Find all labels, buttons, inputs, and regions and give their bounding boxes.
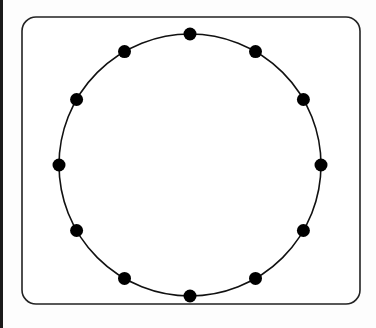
circle-point-6 [249, 272, 262, 285]
diagram-frame [22, 17, 360, 304]
circle-point-5 [297, 224, 310, 237]
circle-point-4 [315, 159, 328, 172]
circle-point-7 [184, 290, 197, 303]
circle-diagram [0, 0, 376, 328]
circle-point-11 [70, 93, 83, 106]
circle-point-12 [118, 45, 131, 58]
circle-point-3 [297, 93, 310, 106]
circle-point-1 [184, 28, 197, 41]
circle-point-9 [70, 224, 83, 237]
circle-point-8 [118, 272, 131, 285]
circle-point-2 [249, 45, 262, 58]
circle-point-10 [53, 159, 66, 172]
